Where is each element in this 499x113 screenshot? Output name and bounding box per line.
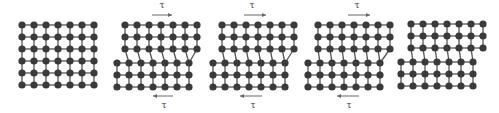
atom <box>125 83 132 90</box>
atom <box>149 59 156 66</box>
arrow-right-icon <box>168 13 172 17</box>
atom <box>242 45 249 52</box>
atom <box>338 21 345 28</box>
atom <box>54 45 61 52</box>
tau-label: τ <box>347 100 352 110</box>
atom <box>30 81 37 88</box>
atom <box>66 45 73 52</box>
atom <box>314 33 321 40</box>
atom <box>18 57 25 64</box>
atom <box>374 45 381 52</box>
atom <box>338 33 345 40</box>
atom <box>409 70 416 77</box>
atom <box>121 33 128 40</box>
atom <box>181 33 188 40</box>
atom <box>90 81 97 88</box>
atom <box>457 58 464 65</box>
atom <box>125 59 132 66</box>
atom <box>278 33 285 40</box>
atom <box>90 21 97 28</box>
atom <box>221 71 228 78</box>
atom <box>137 59 144 66</box>
atom <box>18 45 25 52</box>
atom <box>326 21 333 28</box>
atom <box>42 33 49 40</box>
atom <box>78 57 85 64</box>
atom <box>193 33 200 40</box>
atom <box>362 33 369 40</box>
atom <box>455 20 462 27</box>
atom <box>173 71 180 78</box>
atom <box>352 59 359 66</box>
atom <box>121 21 128 28</box>
atom <box>257 71 264 78</box>
atom <box>254 21 261 28</box>
atom <box>66 21 73 28</box>
atom <box>78 21 85 28</box>
atom <box>419 20 426 27</box>
atom <box>338 45 345 52</box>
atom <box>433 70 440 77</box>
atom <box>469 82 476 89</box>
atom <box>431 20 438 27</box>
atom <box>445 58 452 65</box>
atom <box>290 21 297 28</box>
atom <box>479 32 486 39</box>
atom <box>421 58 428 65</box>
atom <box>42 21 49 28</box>
atom <box>18 21 25 28</box>
panel-perfect-lattice <box>18 21 97 88</box>
atom <box>218 21 225 28</box>
shear-stress-top: τ <box>348 0 370 17</box>
atom <box>328 59 335 66</box>
atom <box>376 83 383 90</box>
atom <box>469 58 476 65</box>
atom <box>193 45 200 52</box>
atom <box>169 45 176 52</box>
atom <box>54 33 61 40</box>
atom <box>145 33 152 40</box>
atom <box>54 69 61 76</box>
atom <box>54 81 61 88</box>
shear-stress-bottom: τ <box>337 94 359 110</box>
atom <box>66 57 73 64</box>
arrow-right-icon <box>366 13 370 17</box>
atom <box>340 83 347 90</box>
atom <box>328 71 335 78</box>
atom <box>269 83 276 90</box>
atom <box>242 21 249 28</box>
atom <box>281 71 288 78</box>
atom <box>443 32 450 39</box>
atom <box>469 70 476 77</box>
atom <box>374 33 381 40</box>
atom <box>340 71 347 78</box>
atom <box>18 33 25 40</box>
atom <box>281 83 288 90</box>
atom <box>304 71 311 78</box>
atom <box>409 82 416 89</box>
atom <box>18 69 25 76</box>
atom <box>230 33 237 40</box>
atom <box>479 20 486 27</box>
atom <box>78 69 85 76</box>
atom <box>161 83 168 90</box>
atom <box>314 45 321 52</box>
atom <box>78 45 85 52</box>
atom <box>443 20 450 27</box>
atom <box>18 81 25 88</box>
dislocation-diagram: ττττττ <box>0 0 499 113</box>
atom <box>278 21 285 28</box>
atom <box>316 83 323 90</box>
shear-stress-bottom: τ <box>240 94 262 110</box>
atom <box>245 83 252 90</box>
atom <box>397 58 404 65</box>
atom <box>161 59 168 66</box>
atom <box>266 33 273 40</box>
atom <box>455 32 462 39</box>
atom <box>209 83 216 90</box>
atom <box>181 21 188 28</box>
atom <box>350 33 357 40</box>
atom <box>362 21 369 28</box>
atom <box>137 71 144 78</box>
atom <box>233 71 240 78</box>
